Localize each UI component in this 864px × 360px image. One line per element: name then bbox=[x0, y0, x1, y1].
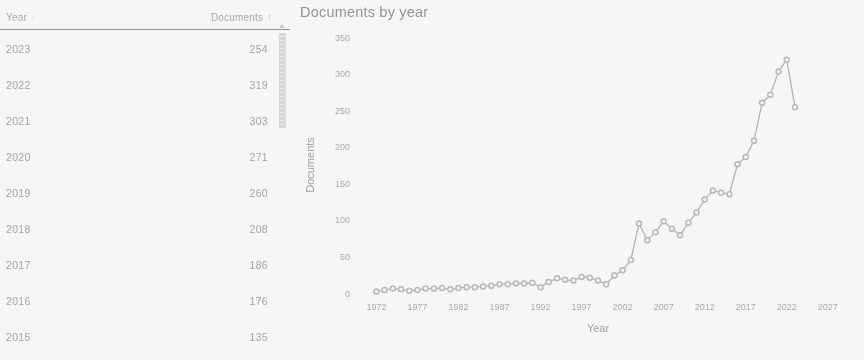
data-point-marker[interactable] bbox=[505, 282, 510, 287]
y-axis-tick-label: 200 bbox=[335, 142, 350, 152]
column-header-documents[interactable]: Documents ↑ bbox=[211, 12, 272, 23]
cell-documents: 208 bbox=[250, 223, 268, 235]
cell-documents: 271 bbox=[250, 151, 268, 163]
data-point-marker[interactable] bbox=[661, 219, 666, 224]
data-point-marker[interactable] bbox=[472, 285, 477, 290]
data-point-marker[interactable] bbox=[489, 283, 494, 288]
x-axis-tick-label: 2027 bbox=[818, 302, 838, 312]
data-point-marker[interactable] bbox=[776, 69, 781, 74]
data-point-marker[interactable] bbox=[694, 210, 699, 215]
data-point-marker[interactable] bbox=[792, 105, 797, 110]
data-point-marker[interactable] bbox=[735, 162, 740, 167]
table-row[interactable]: 2019260 bbox=[0, 175, 290, 211]
data-point-marker[interactable] bbox=[481, 284, 486, 289]
table-header-row: Year ↓ Documents ↑ bbox=[0, 0, 290, 28]
table-row[interactable]: 2018208 bbox=[0, 211, 290, 247]
data-point-marker[interactable] bbox=[440, 285, 445, 290]
header-divider bbox=[0, 29, 290, 30]
table-row[interactable]: 2016176 bbox=[0, 283, 290, 319]
y-axis-tick-label: 250 bbox=[335, 106, 350, 116]
y-axis-tick-label: 100 bbox=[335, 215, 350, 225]
data-point-marker[interactable] bbox=[374, 289, 379, 294]
column-header-year[interactable]: Year ↓ bbox=[6, 12, 211, 23]
x-axis-tick-label: 2012 bbox=[695, 302, 715, 312]
data-point-marker[interactable] bbox=[751, 138, 756, 143]
x-axis-tick-label: 2022 bbox=[777, 302, 797, 312]
x-axis-tick-label: 1977 bbox=[407, 302, 427, 312]
cell-year: 2019 bbox=[6, 187, 250, 199]
column-header-year-label: Year bbox=[6, 12, 27, 23]
data-point-marker[interactable] bbox=[399, 287, 404, 292]
x-axis-label: Year bbox=[587, 322, 610, 334]
sort-ascending-arrow-icon: ↑ bbox=[267, 13, 272, 22]
scroll-up-arrow-icon[interactable] bbox=[279, 24, 285, 28]
data-point-marker[interactable] bbox=[678, 233, 683, 238]
data-point-marker[interactable] bbox=[710, 188, 715, 193]
data-point-marker[interactable] bbox=[423, 286, 428, 291]
x-axis-tick-label: 2007 bbox=[654, 302, 674, 312]
cell-documents: 319 bbox=[250, 79, 268, 91]
data-point-marker[interactable] bbox=[628, 258, 633, 263]
data-point-marker[interactable] bbox=[719, 190, 724, 195]
data-point-marker[interactable] bbox=[604, 282, 609, 287]
cell-documents: 260 bbox=[250, 187, 268, 199]
data-point-marker[interactable] bbox=[579, 274, 584, 279]
data-point-marker[interactable] bbox=[587, 275, 592, 280]
cell-year: 2023 bbox=[6, 43, 250, 55]
data-point-marker[interactable] bbox=[530, 280, 535, 285]
cell-year: 2016 bbox=[6, 295, 250, 307]
data-point-marker[interactable] bbox=[563, 277, 568, 282]
table-body[interactable]: 2023254202231920213032020271201926020182… bbox=[0, 31, 290, 360]
data-point-marker[interactable] bbox=[612, 273, 617, 278]
table-scrollbar[interactable] bbox=[279, 33, 286, 358]
data-point-marker[interactable] bbox=[538, 285, 543, 290]
data-point-marker[interactable] bbox=[653, 230, 658, 235]
data-point-marker[interactable] bbox=[784, 57, 789, 62]
data-point-marker[interactable] bbox=[382, 288, 387, 293]
cell-year: 2018 bbox=[6, 223, 250, 235]
table-row[interactable]: 2022319 bbox=[0, 67, 290, 103]
table-scrollbar-thumb[interactable] bbox=[279, 33, 286, 128]
data-point-marker[interactable] bbox=[702, 197, 707, 202]
table-row[interactable]: 2023254 bbox=[0, 31, 290, 67]
table-row[interactable]: 2015135 bbox=[0, 319, 290, 355]
data-point-marker[interactable] bbox=[407, 288, 412, 293]
data-point-marker[interactable] bbox=[554, 276, 559, 281]
data-point-marker[interactable] bbox=[456, 285, 461, 290]
data-point-marker[interactable] bbox=[448, 287, 453, 292]
data-point-marker[interactable] bbox=[431, 286, 436, 291]
data-point-marker[interactable] bbox=[686, 220, 691, 225]
data-point-marker[interactable] bbox=[645, 238, 650, 243]
y-axis-tick-label: 0 bbox=[345, 289, 350, 299]
x-axis-tick-label: 1972 bbox=[366, 302, 386, 312]
data-point-marker[interactable] bbox=[669, 226, 674, 231]
data-point-marker[interactable] bbox=[620, 268, 625, 273]
x-axis-tick-label: 1992 bbox=[531, 302, 551, 312]
cell-year: 2017 bbox=[6, 259, 250, 271]
cell-year: 2020 bbox=[6, 151, 250, 163]
data-point-marker[interactable] bbox=[760, 100, 765, 105]
cell-documents: 303 bbox=[250, 115, 268, 127]
y-axis-label: Documents bbox=[304, 137, 316, 193]
data-point-marker[interactable] bbox=[637, 221, 642, 226]
data-point-marker[interactable] bbox=[497, 282, 502, 287]
data-point-marker[interactable] bbox=[727, 192, 732, 197]
x-axis-tick-label: 1982 bbox=[448, 302, 468, 312]
data-point-marker[interactable] bbox=[513, 281, 518, 286]
table-row[interactable]: 2017186 bbox=[0, 247, 290, 283]
cell-year: 2015 bbox=[6, 331, 250, 343]
x-axis-tick-label: 1987 bbox=[490, 302, 510, 312]
data-point-marker[interactable] bbox=[546, 280, 551, 285]
table-row[interactable]: 2020271 bbox=[0, 139, 290, 175]
data-point-marker[interactable] bbox=[743, 154, 748, 159]
data-point-marker[interactable] bbox=[571, 278, 576, 283]
data-point-marker[interactable] bbox=[464, 285, 469, 290]
data-point-marker[interactable] bbox=[415, 288, 420, 293]
data-point-marker[interactable] bbox=[596, 278, 601, 283]
data-point-marker[interactable] bbox=[390, 286, 395, 291]
chart-plot-area: 050100150200250300350Documents1972197719… bbox=[290, 0, 864, 360]
data-point-marker[interactable] bbox=[522, 281, 527, 286]
table-row[interactable]: 2021303 bbox=[0, 103, 290, 139]
data-point-marker[interactable] bbox=[768, 92, 773, 97]
documents-by-year-chart: Documents by year 050100150200250300350D… bbox=[290, 0, 864, 360]
